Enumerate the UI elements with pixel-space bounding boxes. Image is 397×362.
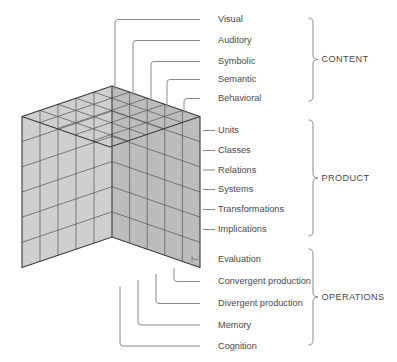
dimension-label-product-1: Classes: [218, 145, 251, 155]
dimension-label-operations-1: Convergent production: [218, 276, 311, 286]
group-label-operations: OPERATIONS: [322, 292, 385, 302]
dimension-label-product-3: Systems: [218, 184, 254, 194]
brace-product: [309, 120, 318, 236]
dimension-label-operations-0: Evaluation: [218, 254, 261, 264]
dimension-label-operations-3: Memory: [218, 320, 252, 330]
dimension-label-operations-2: Divergent production: [218, 298, 303, 308]
connector-line-content-4: [184, 99, 200, 114]
connector-line-operations-2: [156, 274, 200, 304]
dimension-label-product-0: Units: [218, 125, 239, 135]
dimension-label-content-0: Visual: [218, 14, 243, 24]
structure-of-intellect-diagram: VisualAuditorySymbolicSemanticBehavioral…: [0, 0, 397, 362]
dimension-label-content-4: Behavioral: [218, 93, 261, 103]
dimension-label-content-1: Auditory: [218, 35, 252, 45]
dimension-labels: VisualAuditorySymbolicSemanticBehavioral…: [218, 14, 385, 351]
dimension-label-content-2: Symbolic: [218, 56, 256, 66]
connector-line-operations-3: [138, 280, 200, 325]
dimension-label-product-2: Relations: [218, 165, 257, 175]
brace-content: [309, 18, 318, 101]
group-braces: [309, 18, 318, 345]
figure-canvas: VisualAuditorySymbolicSemanticBehavioral…: [0, 0, 397, 362]
dimension-label-content-3: Semantic: [218, 74, 257, 84]
group-label-content: CONTENT: [322, 54, 369, 64]
group-label-product: PRODUCT: [322, 173, 370, 183]
connector-line-operations-1: [174, 268, 200, 282]
dimension-label-product-4: Transformations: [218, 204, 284, 214]
connector-line-content-2: [151, 62, 200, 102]
connector-line-operations-4: [120, 287, 200, 347]
dimension-label-operations-4: Cognition: [218, 341, 257, 351]
soi-cube: [22, 86, 200, 268]
brace-operations: [309, 249, 318, 345]
dimension-label-product-5: Implications: [218, 224, 267, 234]
